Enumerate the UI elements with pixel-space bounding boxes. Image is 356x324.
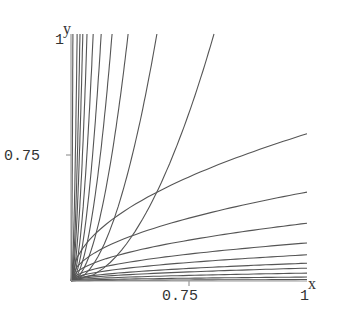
contour-lines bbox=[71, 34, 307, 281]
y-axis-label: y bbox=[63, 20, 71, 38]
contour-line-upper bbox=[71, 34, 157, 281]
x-tick-label-0.75: 0.75 bbox=[162, 288, 198, 305]
contour-plot: 0.75 1 y 0.75 1 x bbox=[0, 0, 356, 324]
contour-line-right bbox=[71, 192, 307, 281]
x-axis-label: x bbox=[308, 275, 316, 292]
y-tick-label-0.75: 0.75 bbox=[4, 148, 40, 165]
